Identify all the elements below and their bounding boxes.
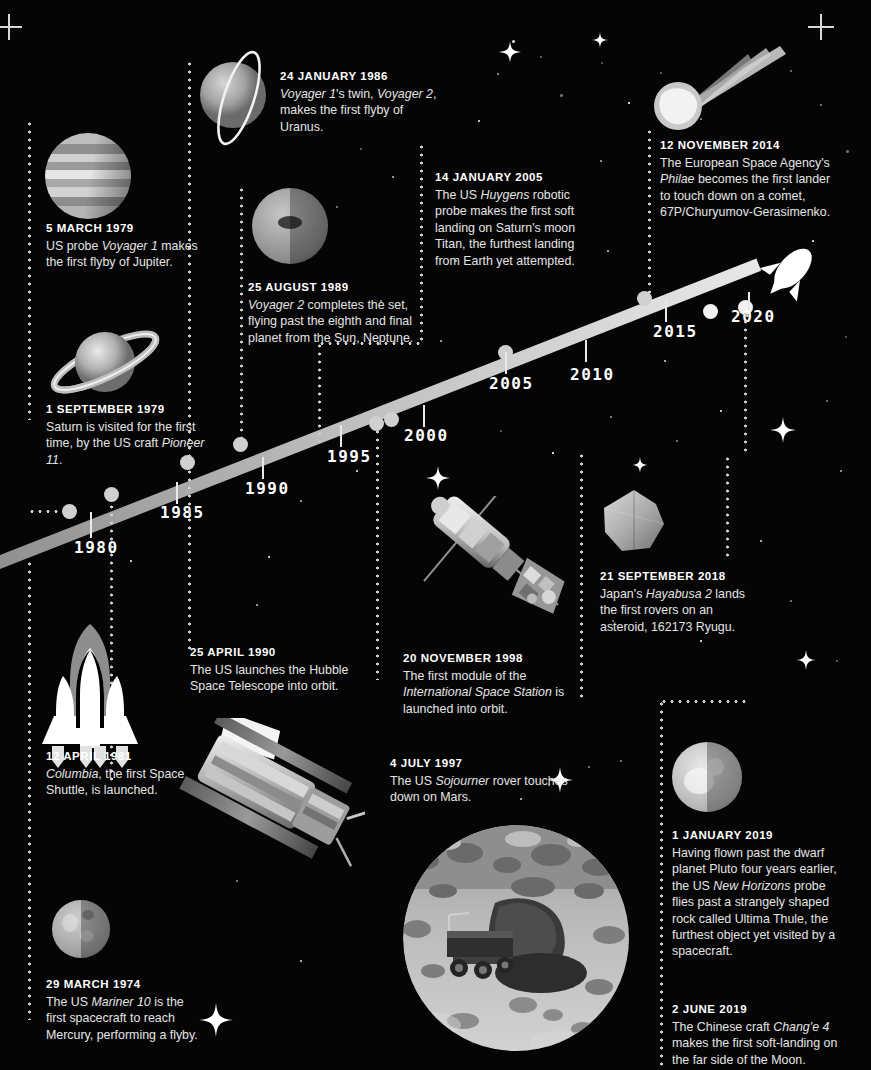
star bbox=[500, 430, 502, 432]
tick-2000 bbox=[423, 405, 425, 427]
tick-2010 bbox=[585, 340, 587, 362]
event-body: Japan's Hayabusa 2 lands the first rover… bbox=[600, 586, 760, 635]
star bbox=[336, 206, 338, 208]
star bbox=[300, 500, 302, 502]
connector-voyager1 bbox=[28, 120, 31, 420]
timeline-node-2000b bbox=[384, 412, 399, 427]
event-body: Saturn is visited for the first time, by… bbox=[46, 419, 216, 468]
event-pioneer-11-saturn: 1 SEPTEMBER 1979 Saturn is visited for t… bbox=[46, 403, 216, 468]
event-body: Columbia, the first Space Shuttle, is la… bbox=[46, 766, 206, 799]
star bbox=[664, 360, 666, 362]
event-voyager-2-neptune: 25 AUGUST 1989 Voyager 2 completes the s… bbox=[248, 281, 423, 346]
event-date: 29 MARCH 1974 bbox=[46, 978, 206, 990]
event-body: The US Sojourner rover touches down on M… bbox=[390, 773, 570, 806]
event-voyager-1-jupiter: 5 MARCH 1979 US probe Voyager 1 makes th… bbox=[46, 222, 206, 271]
year-label-2020: 2020 bbox=[731, 307, 776, 326]
star bbox=[700, 640, 702, 642]
comet-icon bbox=[640, 42, 790, 132]
star bbox=[601, 62, 603, 64]
star bbox=[268, 556, 270, 558]
star bbox=[628, 102, 630, 104]
year-label-1985: 1985 bbox=[160, 503, 205, 522]
event-body: The Chinese craft Chang'e 4 makes the fi… bbox=[672, 1019, 850, 1068]
year-label-2010: 2010 bbox=[570, 365, 615, 384]
star bbox=[760, 540, 762, 542]
connector-philae bbox=[648, 128, 651, 298]
star bbox=[600, 160, 602, 162]
tick-1990 bbox=[262, 457, 264, 479]
space-shuttle bbox=[36, 620, 144, 770]
connector-newhorizons-elbow bbox=[660, 700, 750, 703]
sparkle-star bbox=[796, 650, 816, 670]
star bbox=[846, 150, 849, 153]
event-date: 14 JANUARY 2005 bbox=[435, 171, 601, 183]
sparkle-star bbox=[499, 41, 521, 63]
event-sojourner-mars: 4 JULY 1997 The US Sojourner rover touch… bbox=[390, 757, 570, 806]
star bbox=[497, 73, 499, 75]
star bbox=[478, 120, 480, 122]
event-date: 1 SEPTEMBER 1979 bbox=[46, 403, 216, 415]
star bbox=[607, 250, 609, 252]
tick-1985 bbox=[176, 482, 178, 504]
star bbox=[540, 56, 542, 58]
star bbox=[836, 660, 838, 662]
event-date: 25 AUGUST 1989 bbox=[248, 281, 423, 293]
event-hayabusa-2-ryugu: 21 SEPTEMBER 2018 Japan's Hayabusa 2 lan… bbox=[600, 570, 760, 635]
event-body: The US launches the Hubble Space Telesco… bbox=[190, 662, 362, 695]
tick-2005 bbox=[505, 352, 507, 374]
event-body: Voyager 1's twin, Voyager 2, makes the f… bbox=[280, 86, 450, 135]
event-body: Having flown past the dwarf planet Pluto… bbox=[672, 845, 844, 960]
event-huygens-titan: 14 JANUARY 2005 The US Huygens robotic p… bbox=[435, 171, 601, 269]
star bbox=[840, 470, 842, 472]
event-voyager-2-uranus: 24 JANUARY 1986 Voyager 1's twin, Voyage… bbox=[280, 70, 450, 135]
event-date: 21 SEPTEMBER 2018 bbox=[600, 570, 760, 582]
event-iss-first-module: 20 NOVEMBER 1998 The first module of the… bbox=[403, 652, 588, 717]
event-date: 5 MARCH 1979 bbox=[46, 222, 206, 234]
pluto-shading bbox=[672, 742, 742, 812]
star bbox=[560, 94, 563, 97]
star bbox=[588, 766, 590, 768]
rocket-icon bbox=[750, 233, 828, 313]
star bbox=[676, 440, 678, 442]
event-body: The US Huygens robotic probe makes the f… bbox=[435, 187, 601, 269]
event-body: The European Space Agency's Philae becom… bbox=[660, 155, 838, 221]
jupiter-shading bbox=[45, 133, 131, 219]
event-body: The first module of the International Sp… bbox=[403, 668, 588, 717]
iss-photo bbox=[392, 496, 572, 646]
star bbox=[356, 470, 358, 472]
event-mariner-10: 29 MARCH 1974 The US Mariner 10 is the f… bbox=[46, 978, 206, 1043]
pluto-body bbox=[672, 742, 742, 812]
year-label-2005: 2005 bbox=[489, 374, 534, 393]
star bbox=[826, 400, 828, 402]
connector-hubble bbox=[188, 460, 191, 650]
connector-neptune bbox=[240, 186, 243, 438]
star bbox=[720, 410, 722, 412]
event-body: Voyager 2 completes the set, flying past… bbox=[248, 297, 423, 346]
connector-1980-elbow bbox=[28, 510, 73, 513]
star bbox=[392, 176, 394, 178]
neptune-shading bbox=[252, 188, 328, 264]
event-date: 4 JULY 1997 bbox=[390, 757, 570, 769]
sparkle-star bbox=[770, 417, 796, 443]
mercury-shading bbox=[52, 900, 110, 958]
saturn-planet bbox=[40, 312, 170, 412]
hubble-photo bbox=[140, 718, 365, 918]
year-label-2000: 2000 bbox=[404, 426, 449, 445]
event-new-horizons-ultima-thule: 1 JANUARY 2019 Having flown past the dwa… bbox=[672, 829, 844, 960]
year-label-1995: 1995 bbox=[327, 447, 372, 466]
event-date: 25 APRIL 1990 bbox=[190, 646, 362, 658]
event-date: 2 JUNE 2019 bbox=[672, 1003, 850, 1015]
event-date: 1 JANUARY 2019 bbox=[672, 829, 844, 841]
tick-1995 bbox=[340, 425, 342, 447]
event-body: The US Mariner 10 is the first spacecraf… bbox=[46, 994, 206, 1043]
event-philae-comet: 12 NOVEMBER 2014 The European Space Agen… bbox=[660, 139, 838, 221]
jupiter-planet bbox=[45, 133, 131, 219]
connector-hayabusa-r bbox=[726, 455, 729, 560]
connector-newhorizons bbox=[660, 700, 663, 1070]
sparkle-star bbox=[592, 32, 608, 48]
connector-change4 bbox=[744, 310, 747, 455]
event-columbia-shuttle: 12 APRIL 1981 Columbia, the first Space … bbox=[46, 750, 206, 799]
star bbox=[845, 336, 847, 338]
star bbox=[440, 340, 442, 342]
star bbox=[790, 70, 792, 72]
